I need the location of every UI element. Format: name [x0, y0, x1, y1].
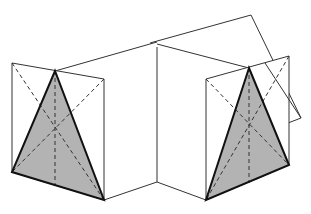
right-prism — [206, 56, 289, 200]
connector-bottom-right — [157, 182, 206, 200]
left-prism — [12, 63, 104, 200]
connector-top-mid — [157, 44, 249, 68]
connector-top-left — [55, 42, 157, 71]
connector-bottom-left — [104, 182, 157, 200]
prism-diagram — [0, 0, 311, 214]
